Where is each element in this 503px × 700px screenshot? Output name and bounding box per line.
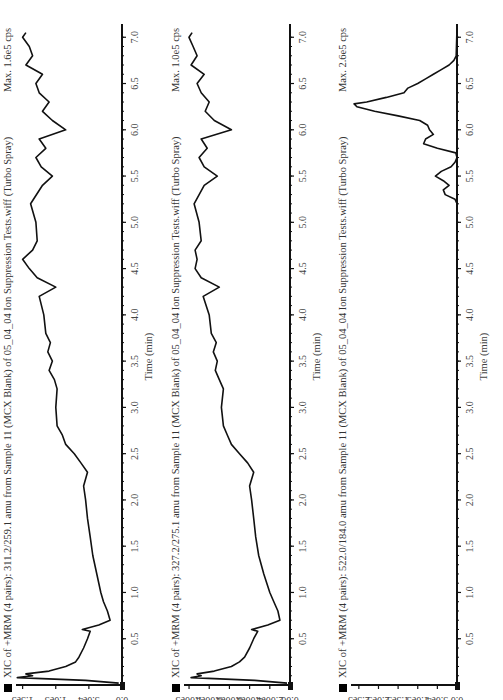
x-tick-label: 6.0	[129, 124, 140, 137]
x-tick-label: 1.5	[129, 540, 140, 553]
x-tick-label: 5.0	[129, 216, 140, 229]
x-tick-label: 4.5	[464, 262, 475, 275]
x-tick-label: 0.5	[464, 632, 475, 645]
x-tick-label: 2.5	[129, 447, 140, 460]
chromatogram-panel-3: XIC of +MRM (4 pairs): 522.0/184.0 amu f…	[335, 0, 503, 700]
origin-marker	[288, 682, 293, 690]
x-tick-label: 1.0	[129, 586, 140, 599]
y-tick-label: 1.00e5	[176, 695, 203, 700]
x-tick-label: 5.0	[464, 216, 475, 229]
x-tick-label: 1.5	[297, 540, 308, 553]
y-tick-label: 2.5e5	[348, 695, 370, 700]
x-tick-label: 5.5	[129, 170, 140, 183]
y-tick-label: 1.0e5	[45, 695, 67, 700]
x-tick-label: 6.0	[297, 124, 308, 137]
x-axis-title: Time (min)	[478, 332, 490, 380]
x-tick-label: 0.5	[297, 632, 308, 645]
y-tick-label: 5.0e4	[78, 695, 100, 700]
x-tick-label: 2.5	[464, 447, 475, 460]
x-tick-label: 3.0	[129, 401, 140, 414]
chromatogram-figure: XIC of +MRM (4 pairs): 311.2/259.1 amu f…	[0, 0, 503, 700]
x-tick-label: 2.5	[297, 447, 308, 460]
chromatogram-trace	[189, 33, 287, 684]
chromatogram-trace	[17, 33, 118, 684]
x-axis-title: Time (min)	[311, 332, 323, 380]
y-tick-label: 0.0	[451, 695, 464, 700]
plot-area: 0.51.01.52.02.53.03.54.04.55.05.56.06.57…	[335, 0, 503, 700]
x-tick-label: 1.0	[297, 586, 308, 599]
x-tick-label: 7.0	[297, 31, 308, 44]
x-tick-label: 3.5	[129, 355, 140, 368]
x-tick-label: 6.5	[464, 77, 475, 90]
x-tick-label: 4.5	[129, 262, 140, 275]
plot-area: 0.51.01.52.02.53.03.54.04.55.05.56.06.57…	[0, 0, 168, 700]
x-axis-title: Time (min)	[143, 332, 155, 380]
x-tick-label: 4.5	[297, 262, 308, 275]
x-tick-label: 5.5	[297, 170, 308, 183]
chromatogram-panel-1: XIC of +MRM (4 pairs): 311.2/259.1 amu f…	[0, 0, 168, 700]
x-tick-label: 1.5	[464, 540, 475, 553]
x-tick-label: 6.5	[297, 77, 308, 90]
x-tick-label: 4.0	[129, 309, 140, 322]
chromatogram-panel-2: XIC of +MRM (4 pairs): 327.2/275.1 amu f…	[168, 0, 336, 700]
y-tick-label: 1.5e5	[12, 695, 34, 700]
x-tick-label: 7.0	[464, 31, 475, 44]
x-tick-label: 5.5	[464, 170, 475, 183]
x-tick-label: 2.0	[297, 494, 308, 507]
x-tick-label: 6.5	[129, 77, 140, 90]
x-tick-label: 1.0	[464, 586, 475, 599]
x-tick-label: 3.0	[297, 401, 308, 414]
x-tick-label: 2.0	[129, 494, 140, 507]
x-tick-label: 3.5	[297, 355, 308, 368]
x-tick-label: 4.0	[297, 309, 308, 322]
x-tick-label: 4.0	[464, 309, 475, 322]
x-tick-label: 2.0	[464, 494, 475, 507]
x-tick-label: 7.0	[129, 31, 140, 44]
x-tick-label: 0.5	[129, 632, 140, 645]
x-tick-label: 5.0	[297, 216, 308, 229]
origin-marker	[120, 682, 125, 690]
x-tick-label: 3.0	[464, 401, 475, 414]
x-tick-label: 6.0	[464, 124, 475, 137]
x-tick-label: 3.5	[464, 355, 475, 368]
plot-area: 0.51.01.52.02.53.03.54.04.55.05.56.06.57…	[168, 0, 336, 700]
y-tick-label: 0.0	[116, 695, 129, 700]
chromatogram-trace	[354, 28, 457, 685]
